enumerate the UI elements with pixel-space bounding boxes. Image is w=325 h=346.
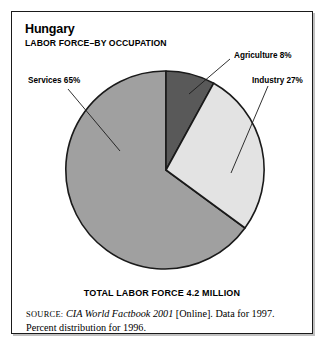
slice-label-agriculture: Agriculture 8%	[234, 50, 292, 60]
slice-label-industry: Industry 27%	[252, 75, 303, 85]
total-labor-force-caption: TOTAL LABOR FORCE 4.2 MILLION	[12, 288, 312, 298]
pie-chart	[12, 12, 314, 335]
source-publication: CIA World Factbook 2001	[66, 308, 173, 319]
slice-label-services: Services 65%	[28, 75, 80, 85]
source-note: SOURCE: CIA World Factbook 2001 [Online]…	[26, 307, 298, 334]
source-label: SOURCE:	[26, 310, 63, 319]
figure-frame: Hungary LABOR FORCE–BY OCCUPATION Servic…	[11, 11, 313, 334]
